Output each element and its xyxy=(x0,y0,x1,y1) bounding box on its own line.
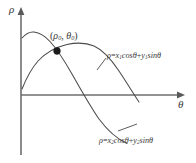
theta-axis-label-text: θ xyxy=(178,98,183,110)
intersection-point-label: (ρ0, θ0) xyxy=(50,31,78,42)
curve-two-sin: sinθ xyxy=(140,136,154,145)
curve-two-cos: cosθ xyxy=(114,136,129,145)
leader-line-lower xyxy=(118,124,137,131)
rho-axis-label-text: ρ xyxy=(9,3,14,15)
curve-one-equation-label: ρ=x1cosθ+y1sinθ xyxy=(107,52,161,60)
theta-axis-label: θ xyxy=(178,99,183,110)
leader-line-upper xyxy=(97,58,106,70)
curve-one-cos: cosθ xyxy=(122,51,137,60)
curve-one-sin: sinθ xyxy=(148,51,162,60)
point-label-close-paren: ) xyxy=(74,30,77,41)
figure-canvas xyxy=(0,0,196,163)
hough-parameter-space-figure: ρ θ (ρ0, θ0) ρ=x1cosθ+y1sinθ ρ=x2cosθ+y2… xyxy=(0,0,196,163)
rho-axis-label: ρ xyxy=(9,4,14,15)
rho-axis-arrowhead xyxy=(18,7,25,15)
intersection-point-marker xyxy=(54,48,61,55)
curve-rho-x1-y1 xyxy=(22,32,127,144)
curve-two-equation-label: ρ=x2cosθ+y2sinθ xyxy=(99,137,153,145)
